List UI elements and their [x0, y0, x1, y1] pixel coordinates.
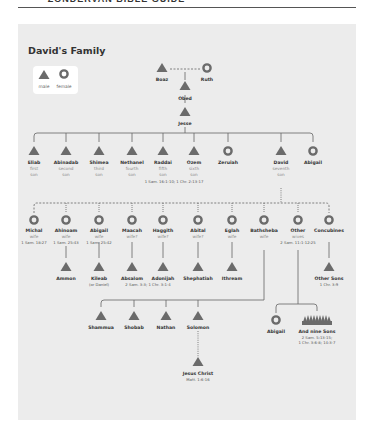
sons-row: Ammon Kileab (or Daniel) Absalom Adonija… — [56, 262, 343, 287]
other-wives-children: Abigail And nine Sons 2 Sam. 5:13-15; 1 … — [267, 315, 336, 345]
role-label: wife? — [193, 234, 204, 239]
node-adonijah: Adonijah — [152, 262, 175, 281]
reference-label: 1 Chr. 3:9 — [320, 282, 339, 287]
name-label: Nethanel — [120, 160, 144, 165]
male-triangle-icon — [94, 262, 105, 271]
male-triangle-icon — [61, 146, 72, 155]
male-triangle-icon — [193, 262, 204, 271]
node-ithream: Ithream — [222, 262, 243, 281]
absalom-adonijah-reference: 2 Sam. 3:3; 1 Chr. 3:1-4 — [125, 282, 171, 287]
male-triangle-icon — [127, 262, 138, 271]
name-label: Obed — [178, 96, 192, 101]
name-label: Jesus Christ — [182, 371, 214, 376]
name-label: Abigail — [90, 228, 108, 233]
male-triangle-icon — [276, 146, 287, 155]
role-label: wives — [292, 234, 304, 239]
note-label: (or Daniel) — [89, 282, 110, 287]
name-label: Ozem — [187, 160, 202, 165]
jesse-children-reference: 1 Sam. 16:1-10; 1 Chr. 2:13-17 — [145, 179, 204, 184]
role-label: wife — [30, 234, 39, 239]
role-label: son — [190, 172, 198, 177]
node-other-sons: Other Sons 1 Chr. 3:9 — [315, 262, 344, 287]
role-label: second — [59, 166, 74, 171]
role-label: fifth — [159, 166, 168, 171]
jesse-children: Eliab first son Abinadab second son Shim… — [28, 146, 323, 184]
female-circle-icon — [228, 216, 235, 223]
role-label: sixth — [189, 166, 199, 171]
node-nethanel: Nethanel fourth son — [120, 146, 144, 177]
name-label: Other — [291, 228, 306, 233]
reference-label: 2 Sam. 11:1-12:25 — [280, 240, 316, 245]
node-kileab: Kileab (or Daniel) — [89, 262, 110, 287]
male-triangle-icon — [39, 70, 50, 79]
legend-male-label: male — [39, 84, 50, 89]
role-label: seventh — [273, 166, 290, 171]
reference-label: 1 Chr. 3:6-8; 14:3-7 — [298, 340, 336, 345]
node-nine-sons: And nine Sons 2 Sam. 5:13-15; 1 Chr. 3:6… — [298, 315, 336, 345]
node-haggith: Haggith wife? — [153, 216, 174, 239]
name-label: Abital — [190, 228, 206, 233]
male-triangle-icon — [61, 262, 72, 271]
male-triangle-icon — [161, 311, 172, 320]
node-david: David seventh son — [273, 146, 290, 177]
role-label: wife — [228, 234, 237, 239]
female-circle-icon — [272, 316, 279, 323]
female-circle-icon — [60, 70, 67, 77]
role-label: wife? — [127, 234, 138, 239]
male-triangle-icon — [157, 63, 168, 72]
node-ahinoam: Ahinoam wife 1 Sam. 25:43 — [53, 216, 79, 245]
male-triangle-icon — [29, 146, 40, 155]
node-michal: Michal wife 1 Sam. 18:27 — [21, 216, 47, 245]
name-label: Shammua — [88, 325, 114, 330]
name-label: Adonijah — [152, 276, 175, 281]
reference-label: 1 Sam. 25:43 — [53, 240, 79, 245]
name-label: Shobab — [124, 325, 144, 330]
node-absalom: Absalom — [121, 262, 143, 281]
wives: Michal wife 1 Sam. 18:27 Ahinoam wife 1 … — [21, 216, 344, 245]
role-label: wife — [95, 234, 104, 239]
name-label: Concubines — [314, 228, 344, 233]
name-label: Ammon — [56, 276, 76, 281]
bathsheba-sons: Shammua Shobab Nathan Solomon — [88, 311, 209, 330]
male-triangle-icon — [129, 311, 140, 320]
role-label: first — [30, 166, 39, 171]
role-label: wife — [62, 234, 71, 239]
name-label: Shimea — [89, 160, 108, 165]
name-label: Kileab — [91, 276, 108, 281]
node-ruth: Ruth — [201, 64, 213, 82]
name-label: Solomon — [187, 325, 209, 330]
role-label: son — [95, 172, 103, 177]
connector-lines — [34, 69, 329, 357]
male-triangle-icon — [127, 146, 138, 155]
node-obed: Obed — [178, 81, 192, 101]
role-label: wife — [260, 234, 269, 239]
name-label: Jesse — [177, 121, 191, 126]
name-label: Eglah — [225, 228, 239, 233]
role-label: third — [94, 166, 104, 171]
female-circle-icon — [128, 216, 135, 223]
node-ozem: Ozem sixth son — [187, 146, 202, 177]
name-label: Abigail — [304, 160, 322, 165]
name-label: Boaz — [156, 77, 169, 82]
family-tree: male female — [0, 0, 376, 440]
name-label: Absalom — [121, 276, 143, 281]
node-maacah: Maacah wife? — [122, 216, 142, 239]
node-eliab: Eliab first son — [28, 146, 41, 177]
name-label: Michal — [26, 228, 43, 233]
name-label: Bathsheba — [250, 228, 278, 233]
node-concubines: Concubines — [314, 216, 344, 233]
male-triangle-icon — [189, 146, 200, 155]
male-triangle-icon — [96, 311, 107, 320]
reference-label: 1 Sam. 25:42 — [86, 240, 112, 245]
female-circle-icon — [224, 147, 231, 154]
female-circle-icon — [159, 216, 166, 223]
legend: male female — [39, 70, 72, 89]
node-abigail-daughter: Abigail — [267, 316, 285, 334]
node-jesus-christ: Jesus Christ Matt. 1:6-16 — [182, 357, 214, 382]
female-circle-icon — [309, 147, 316, 154]
name-label: Abigail — [267, 329, 285, 334]
name-label: Shephatiah — [183, 276, 213, 281]
node-shimea: Shimea third son — [89, 146, 108, 177]
female-circle-icon — [325, 216, 332, 223]
node-raddai: Raddai fifth son — [154, 146, 172, 177]
